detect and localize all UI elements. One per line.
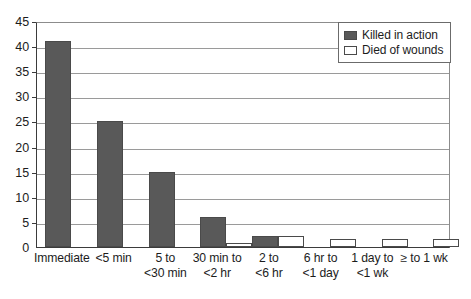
bar-group [141, 23, 193, 247]
legend-swatch-wounds-icon [344, 46, 357, 55]
bar-died-of-wounds [433, 239, 459, 247]
bar-group [244, 23, 296, 247]
bar-killed-in-action [97, 121, 123, 247]
legend-label-killed: Killed in action [362, 29, 438, 41]
y-tick-label-10: 10 [15, 192, 29, 205]
y-tick-label-5: 5 [22, 217, 29, 230]
y-tick-label-30: 30 [15, 91, 29, 104]
legend-item-killed-in-action: Killed in action [344, 28, 445, 42]
y-tick-label-20: 20 [15, 141, 29, 154]
bar-group [37, 23, 89, 247]
y-tick-label-40: 40 [15, 41, 29, 54]
x-axis-label-line2: <1 wk [337, 266, 409, 281]
y-tick-label-35: 35 [15, 66, 29, 79]
x-axis-label-line1: 6 hr to [304, 251, 338, 265]
bar-killed-in-action [45, 41, 71, 247]
x-axis-label-line1: ≥ to 1 wk [400, 251, 447, 265]
bar-killed-in-action [200, 217, 226, 247]
y-tick-label-15: 15 [15, 166, 29, 179]
y-tick-label-25: 25 [15, 116, 29, 129]
y-tick-label-45: 45 [15, 16, 29, 29]
bar-group [192, 23, 244, 247]
bar-chart: 051015202530354045 Immediate<5 min5 to<3… [0, 0, 471, 299]
legend-label-wounds: Died of wounds [362, 44, 443, 56]
bar-group [89, 23, 141, 247]
x-axis-label-line1: 1 day to [351, 251, 393, 265]
bar-killed-in-action [149, 172, 175, 247]
bar-killed-in-action [252, 236, 278, 247]
x-axis-label-line1: <5 min [96, 251, 132, 265]
x-axis-label-line1: 2 to [259, 251, 279, 265]
x-axis-label-line1: 5 to [156, 251, 176, 265]
legend-item-died-of-wounds: Died of wounds [344, 43, 445, 57]
x-axis-labels: Immediate<5 min5 to<30 min30 min to<2 hr… [36, 251, 450, 299]
chart-legend: Killed in action Died of wounds [338, 22, 451, 63]
legend-swatch-killed-icon [344, 31, 357, 40]
x-axis-label: ≥ to 1 wk [388, 251, 460, 266]
